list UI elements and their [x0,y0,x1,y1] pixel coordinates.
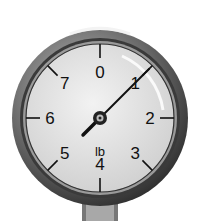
gauge-label-3: 3 [131,144,140,163]
gauge-label-5: 5 [60,144,69,163]
gauge-label-7: 7 [60,74,69,93]
gauge-label-0: 0 [95,63,104,82]
gauge-label-2: 2 [145,109,154,128]
gauge-label-6: 6 [45,109,54,128]
unit-label: lb [95,144,105,159]
scale-gauge: 01234567 lb [0,0,200,221]
